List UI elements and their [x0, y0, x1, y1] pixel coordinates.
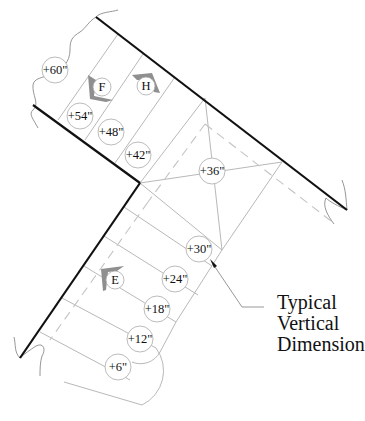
elevation-54: +54"	[67, 103, 93, 129]
callout-line-2: Vertical	[277, 313, 365, 334]
svg-text:H: H	[141, 79, 150, 93]
svg-text:+48": +48"	[99, 125, 124, 139]
svg-text:+60": +60"	[43, 63, 68, 77]
svg-text:+42": +42"	[126, 148, 151, 162]
elevation-30: +30"	[186, 236, 212, 262]
marker-e: E	[106, 271, 124, 289]
landing	[140, 98, 335, 250]
elevation-36: +36"	[199, 158, 225, 184]
callout-line-3: Dimension	[277, 334, 365, 355]
svg-text:+12": +12"	[128, 332, 153, 346]
marker-h: H	[137, 77, 155, 95]
callout-leader	[210, 259, 264, 307]
elevation-60: +60"	[42, 57, 68, 83]
elevation-markers: +60" +54" +48" +42" +36" +30" +24" +18" …	[42, 57, 225, 380]
svg-text:F: F	[99, 80, 106, 94]
svg-text:+24": +24"	[163, 272, 188, 286]
svg-text:E: E	[111, 273, 119, 287]
elevation-12: +12"	[127, 326, 153, 352]
marker-f: F	[93, 78, 111, 96]
callout-label: Typical Vertical Dimension	[277, 292, 365, 355]
elevation-48: +48"	[98, 119, 124, 145]
elevation-24: +24"	[162, 266, 188, 292]
svg-text:+18": +18"	[145, 302, 170, 316]
svg-text:+54": +54"	[68, 109, 93, 123]
letter-markers: F H E	[93, 77, 155, 289]
elevation-6: +6"	[105, 354, 131, 380]
elevation-42: +42"	[125, 142, 151, 168]
svg-text:+30": +30"	[187, 242, 212, 256]
lower-flight-treads	[40, 183, 222, 405]
callout-line-1: Typical	[277, 292, 365, 313]
svg-text:+36": +36"	[200, 164, 225, 178]
break-line-bottom-left	[14, 337, 44, 376]
elevation-18: +18"	[144, 296, 170, 322]
svg-text:+6": +6"	[109, 360, 127, 374]
